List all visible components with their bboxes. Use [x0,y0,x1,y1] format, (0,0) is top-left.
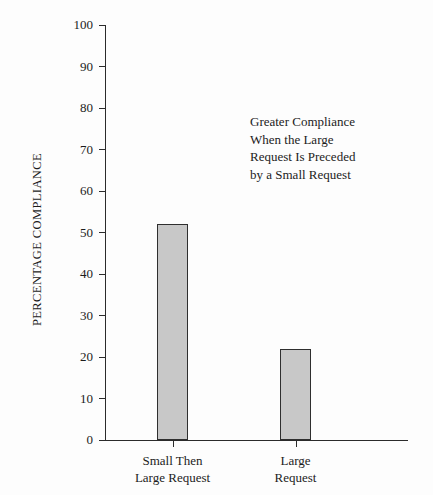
y-axis-tick-label: 10 [80,392,99,405]
x-axis-tick-label-line: Request [216,469,376,486]
y-axis-tick-label: 70 [80,143,99,156]
bar [280,349,311,440]
bar [157,224,188,440]
y-axis-tick-mark [99,274,105,275]
bar-chart-figure: PERCENTAGE COMPLIANCE 010203040506070809… [0,0,433,495]
y-axis-tick-mark [99,149,105,150]
y-axis-tick-label: 40 [80,267,99,280]
y-axis-tick-label: 30 [80,309,99,322]
x-axis-line [105,440,408,441]
y-axis-line [105,25,106,441]
y-axis-tick-mark [99,66,105,67]
y-axis-tick-label: 60 [80,184,99,197]
y-axis-tick: 0 [99,440,105,441]
x-axis-tick-mark [173,441,174,447]
y-axis-tick: 90 [99,66,105,67]
y-axis-tick-label: 20 [80,350,99,363]
y-axis-tick: 80 [99,108,105,109]
y-axis-tick-label: 90 [80,60,99,73]
y-axis-tick: 30 [99,315,105,316]
y-axis-tick: 20 [99,357,105,358]
y-axis-tick-label: 100 [74,18,100,31]
y-axis-tick-mark [99,440,105,441]
y-axis-tick-label: 0 [87,433,100,446]
y-axis-tick-mark [99,232,105,233]
y-axis-tick-mark [99,191,105,192]
y-axis-tick: 100 [99,25,105,26]
chart-annotation: Greater Compliance When the Large Reques… [250,113,355,183]
x-axis-tick-label-line: Large [216,452,376,469]
y-axis-tick-mark [99,108,105,109]
y-axis-tick-mark [99,398,105,399]
y-axis-tick-mark [99,357,105,358]
x-axis-tick-label: LargeRequest [216,452,376,486]
y-axis-tick: 40 [99,274,105,275]
y-axis-tick-label: 80 [80,101,99,114]
y-axis-tick-label: 50 [80,226,99,239]
y-axis-tick-mark [99,315,105,316]
y-axis-tick: 70 [99,149,105,150]
y-axis-tick: 10 [99,398,105,399]
y-axis-tick-mark [99,25,105,26]
x-axis-tick-mark [296,441,297,447]
y-axis-title: PERCENTAGE COMPLIANCE [30,140,45,340]
y-axis-tick: 50 [99,232,105,233]
y-axis-tick: 60 [99,191,105,192]
